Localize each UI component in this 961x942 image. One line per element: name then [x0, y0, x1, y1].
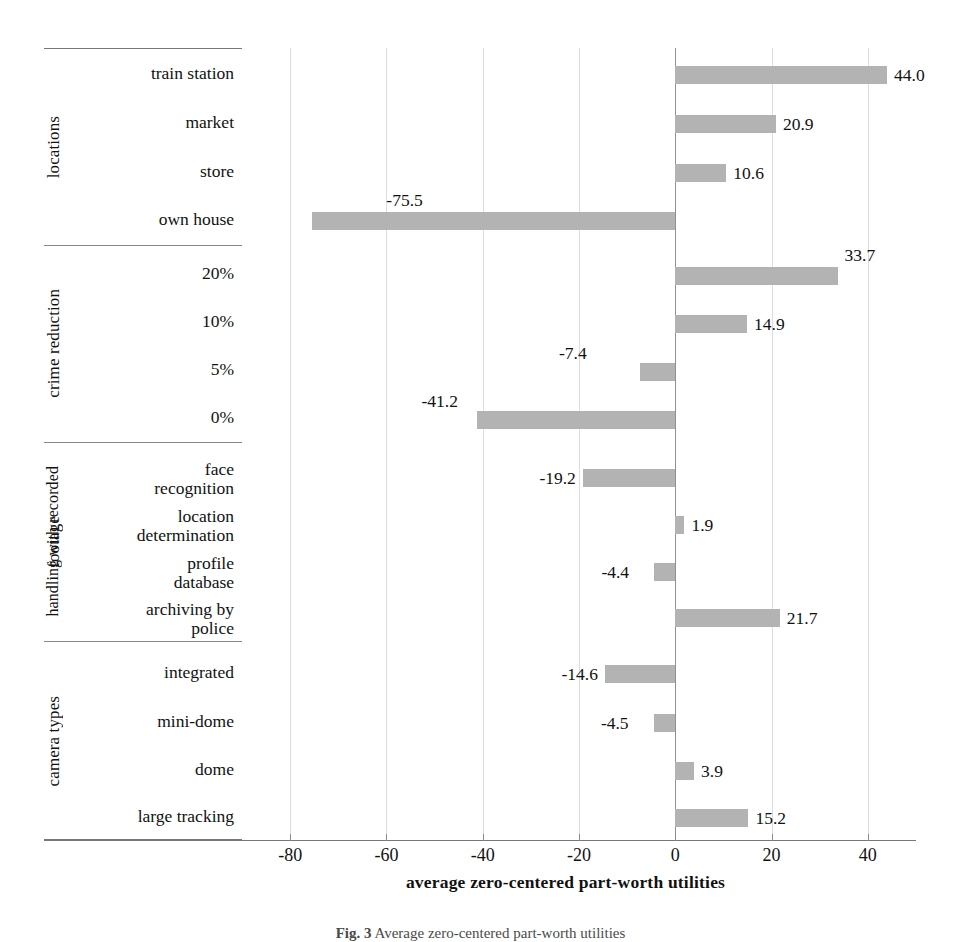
- group-label-text: crime reduction: [44, 289, 76, 398]
- category-label: 20%: [202, 264, 234, 283]
- x-tick--20: [579, 834, 580, 841]
- group-separator: [44, 442, 242, 443]
- gridline-20: [772, 48, 773, 840]
- gridline-40: [868, 48, 869, 840]
- bar-value-label: -4.4: [601, 563, 629, 581]
- caption-prefix: Fig. 3: [336, 925, 372, 941]
- x-tick-label--60: -60: [374, 845, 398, 866]
- bar-value-label: 44.0: [894, 66, 925, 84]
- group-label-text: footage: [44, 516, 84, 568]
- category-label: train station: [151, 64, 234, 83]
- x-tick-20: [772, 834, 773, 841]
- bar-value-label: 21.7: [787, 609, 818, 627]
- category-label: dome: [195, 760, 234, 779]
- category-label: own house: [159, 210, 234, 229]
- x-axis-title: average zero-centered part-worth utiliti…: [0, 872, 961, 893]
- bar-value-label: 33.7: [845, 246, 876, 264]
- bar-value-label: 14.9: [754, 315, 785, 333]
- bar: [675, 809, 748, 827]
- bar-value-label: -14.6: [562, 665, 598, 683]
- bar-value-label: 1.9: [691, 516, 713, 534]
- x-tick--40: [483, 834, 484, 841]
- x-tick-label-40: 40: [859, 845, 877, 866]
- category-label: market: [185, 113, 234, 132]
- gridline--40: [483, 48, 484, 840]
- x-tick-40: [868, 834, 869, 841]
- bar: [654, 714, 676, 732]
- category-label-column: locationstrain stationmarketstoreown hou…: [44, 48, 242, 840]
- category-label: face recognition: [154, 460, 234, 498]
- bar-value-label: 3.9: [701, 762, 723, 780]
- gridline--80: [290, 48, 291, 840]
- bar: [605, 665, 675, 683]
- x-tick-0: [675, 834, 676, 841]
- x-tick-label-0: 0: [671, 845, 680, 866]
- bar-value-label: 15.2: [755, 809, 786, 827]
- caption-text: Average zero-centered part-worth utiliti…: [374, 925, 625, 941]
- bar: [312, 212, 675, 230]
- gridline--20: [579, 48, 580, 840]
- bar: [654, 563, 675, 581]
- x-tick--60: [386, 834, 387, 841]
- bar-value-label: -41.2: [421, 392, 457, 410]
- group-separator: [44, 641, 242, 642]
- plot-area: 44.020.910.6-75.533.714.9-7.4-41.2-19.21…: [242, 48, 916, 840]
- bar: [675, 315, 747, 333]
- category-label: store: [200, 162, 234, 181]
- bar-value-label: -75.5: [386, 191, 422, 209]
- group-separator: [44, 245, 242, 246]
- bar-value-label: -7.4: [559, 344, 587, 362]
- bar: [675, 609, 779, 627]
- group-outer-label-text: handling with recorded: [44, 466, 63, 617]
- category-label: 5%: [211, 360, 234, 379]
- bar: [583, 469, 675, 487]
- bar: [675, 66, 887, 84]
- bar: [640, 363, 676, 381]
- bar-value-label: -4.5: [601, 714, 629, 732]
- bar: [675, 516, 684, 534]
- bar: [675, 762, 694, 780]
- group-label-text: locations: [44, 116, 76, 178]
- x-tick-label-20: 20: [763, 845, 781, 866]
- x-tick-label--80: -80: [278, 845, 302, 866]
- category-label: 10%: [202, 312, 234, 331]
- figure-caption: Fig. 3 Average zero-centered part-worth …: [0, 925, 961, 942]
- bar: [477, 411, 675, 429]
- group-label-text: camera types: [44, 696, 76, 786]
- x-axis-title-text: average zero-centered part-worth utiliti…: [236, 872, 725, 893]
- bar-value-label: -19.2: [539, 469, 575, 487]
- category-label: 0%: [211, 408, 234, 427]
- bar: [675, 267, 837, 285]
- category-label: mini-dome: [157, 712, 234, 731]
- category-label: integrated: [164, 663, 234, 682]
- category-label: archiving by police: [146, 600, 234, 638]
- bar-value-label: 20.9: [783, 115, 814, 133]
- x-tick-label--40: -40: [471, 845, 495, 866]
- category-label: location determination: [137, 507, 234, 545]
- bar: [675, 115, 776, 133]
- x-tick--80: [290, 834, 291, 841]
- x-tick-label--20: -20: [567, 845, 591, 866]
- gridline--60: [386, 48, 387, 840]
- bar-value-label: 10.6: [733, 164, 764, 182]
- x-axis-line: [44, 840, 916, 841]
- bar: [675, 164, 726, 182]
- category-label: large tracking: [138, 807, 234, 826]
- category-label: profile database: [174, 554, 234, 592]
